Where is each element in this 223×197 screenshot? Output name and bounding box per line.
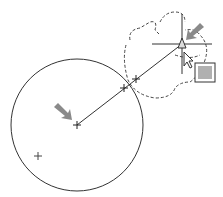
pointer-cursor-icon — [184, 52, 193, 68]
radius-line[interactable] — [77, 44, 182, 125]
dashed-preview-shapes — [124, 12, 206, 98]
center-pointer-arrow-icon — [54, 103, 72, 120]
cad-drawing-canvas[interactable] — [0, 0, 223, 197]
center-cross-mark — [73, 121, 81, 129]
endpoint-pointer-arrow-icon — [186, 23, 204, 40]
grip-box-icon[interactable] — [195, 63, 215, 82]
extra-cross-mark — [34, 152, 42, 160]
